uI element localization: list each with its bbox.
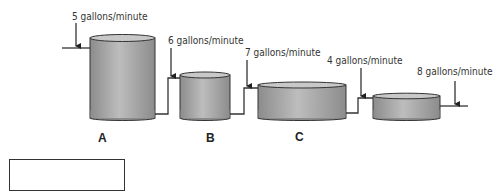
tank-label-b: B [206,131,215,145]
rate-label-a-to-b: 6 gallons/minute [168,35,244,46]
tank-c [258,82,346,121]
tank-label-a: A [98,131,107,145]
tank-a [90,35,155,121]
tank-label-c: C [295,130,304,144]
rate-label-b-to-c: 7 gallons/minute [245,47,321,58]
rate-label-inflow-a: 5 gallons/minute [72,11,148,22]
tank-d [373,93,440,120]
pipe-a-to-b [155,78,180,114]
pipe-c-to-d [346,98,373,113]
tank-b [180,72,230,121]
pipe-b-to-c [230,88,258,114]
answer-box[interactable] [9,159,125,191]
rate-label-c-to-d: 4 gallons/minute [327,55,403,66]
rate-label-outflow-d: 8 gallons/minute [417,66,493,77]
